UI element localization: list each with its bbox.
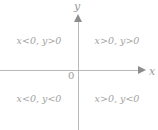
origin-label: 0 bbox=[68, 71, 74, 81]
quadrant-2-label: x<0, y>0 bbox=[8, 36, 70, 46]
y-axis-line bbox=[78, 18, 79, 130]
y-axis-label: y bbox=[74, 1, 80, 12]
quadrant-1-label: x>0, y>0 bbox=[86, 36, 148, 46]
x-axis-label: x bbox=[149, 66, 155, 77]
arrow-right-icon bbox=[138, 66, 146, 74]
quadrant-3-label: x<0, y<0 bbox=[8, 94, 70, 104]
coordinate-plane-diagram: x y 0 x<0, y>0 x>0, y>0 x<0, y<0 x>0, y<… bbox=[0, 0, 158, 130]
quadrant-4-label: x>0, y<0 bbox=[86, 94, 148, 104]
arrow-up-icon bbox=[74, 14, 82, 22]
